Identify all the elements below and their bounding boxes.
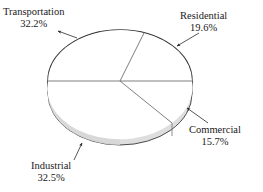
pie-top-face	[47, 30, 192, 139]
slice-label-transportation-value: 32.2%	[3, 18, 64, 30]
slice-label-transportation: Transportation 32.2%	[3, 6, 64, 30]
slice-label-residential-name: Residential	[180, 10, 227, 22]
slice-label-industrial-value: 32.5%	[31, 172, 71, 184]
slice-label-commercial-value: 15.7%	[189, 136, 241, 148]
slice-label-residential-value: 19.6%	[180, 22, 227, 34]
slice-label-residential: Residential 19.6%	[180, 10, 227, 34]
leader-line-residential	[177, 33, 199, 46]
slice-label-transportation-name: Transportation	[3, 6, 64, 18]
slice-label-commercial-name: Commercial	[189, 124, 241, 136]
pie-chart-figure: Transportation 32.2% Residential 19.6% C…	[0, 0, 263, 192]
leader-line-commercial	[187, 108, 208, 123]
leader-line-industrial	[74, 143, 82, 160]
slice-label-commercial: Commercial 15.7%	[189, 124, 241, 148]
leader-line-transportation	[58, 31, 77, 38]
slice-label-industrial-name: Industrial	[31, 160, 71, 172]
slice-label-industrial: Industrial 32.5%	[31, 160, 71, 184]
